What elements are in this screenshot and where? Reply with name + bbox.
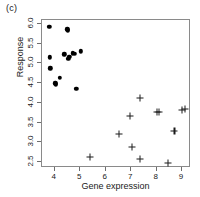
y-axis-tick <box>37 62 41 63</box>
x-axis-label: Gene expression <box>41 181 190 191</box>
y-axis-label: Response <box>15 17 25 97</box>
y-axis-tick <box>37 23 41 24</box>
x-axis-tick-label: 4 <box>52 172 56 181</box>
y-axis-tick <box>37 82 41 83</box>
x-axis-tick-label: 9 <box>179 172 183 181</box>
data-point <box>115 131 122 138</box>
data-point <box>48 66 52 70</box>
data-point <box>171 127 178 134</box>
data-points-layer <box>42 20 189 166</box>
data-point <box>54 82 58 86</box>
y-axis-tick-label: 3.5 <box>25 117 36 126</box>
data-point <box>72 52 76 56</box>
y-axis-tick <box>37 122 41 123</box>
x-axis-tick <box>130 167 131 171</box>
data-point <box>47 25 51 29</box>
x-axis-tick <box>181 167 182 171</box>
y-axis-tick-label: 6.0 <box>25 18 36 27</box>
data-point <box>67 54 71 58</box>
x-axis-tick-label: 7 <box>128 172 132 181</box>
y-axis-tick <box>37 43 41 44</box>
data-point <box>86 154 93 161</box>
x-axis-tick <box>79 167 80 171</box>
data-point <box>136 94 143 101</box>
y-axis-tick-label: 5.5 <box>25 38 36 47</box>
y-axis-tick <box>37 161 41 162</box>
y-axis-tick <box>37 102 41 103</box>
y-axis-tick-label: 3.0 <box>25 137 36 146</box>
data-point <box>181 105 188 112</box>
data-point <box>58 75 62 79</box>
data-point <box>156 109 163 116</box>
data-point <box>137 156 144 163</box>
x-axis-tick <box>105 167 106 171</box>
data-point <box>47 55 51 59</box>
data-point <box>165 159 172 166</box>
x-axis-tick <box>156 167 157 171</box>
x-axis-tick <box>54 167 55 171</box>
x-axis-tick-label: 8 <box>153 172 157 181</box>
data-point <box>66 28 70 32</box>
y-axis-tick-label: 4.5 <box>25 78 36 87</box>
scatter-figure: (c) 456789 2.53.03.54.04.55.05.56.0 Gene… <box>0 0 200 197</box>
x-axis-tick-label: 5 <box>77 172 81 181</box>
y-axis-tick <box>37 141 41 142</box>
data-point <box>128 144 135 151</box>
data-point <box>127 112 134 119</box>
data-point <box>62 52 66 56</box>
x-axis-tick-label: 6 <box>102 172 106 181</box>
plot-panel <box>41 19 190 167</box>
data-point <box>79 49 83 53</box>
y-axis-tick-label: 2.5 <box>25 157 36 166</box>
panel-label: (c) <box>6 3 17 13</box>
data-point <box>74 87 78 91</box>
y-axis-tick-label: 5.0 <box>25 58 36 67</box>
y-axis-tick-label: 4.0 <box>25 97 36 106</box>
